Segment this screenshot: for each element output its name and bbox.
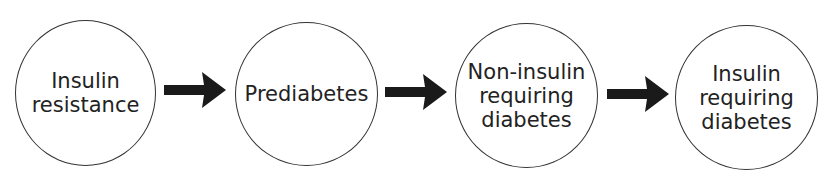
node-label-line: Insulin [699, 62, 794, 86]
node-insulin-resistance: Insulin resistance [15, 20, 156, 166]
node-prediabetes: Prediabetes [235, 22, 378, 166]
node-label-line: requiring [468, 84, 586, 108]
node-label-line: diabetes [468, 108, 586, 132]
arrow-icon [607, 76, 669, 112]
node-label-line: diabetes [699, 110, 794, 134]
node-label-line: Insulin [32, 69, 140, 93]
arrow-icon [385, 74, 447, 110]
node-label-line: Prediabetes [245, 82, 369, 106]
node-label-line: requiring [699, 86, 794, 110]
arrow-icon [164, 72, 226, 108]
node-label-line: resistance [32, 93, 140, 117]
node-label-line: Non-insulin [468, 60, 586, 84]
node-non-insulin-requiring-diabetes: Non-insulin requiring diabetes [455, 23, 598, 168]
node-insulin-requiring-diabetes: Insulin requiring diabetes [675, 25, 818, 170]
